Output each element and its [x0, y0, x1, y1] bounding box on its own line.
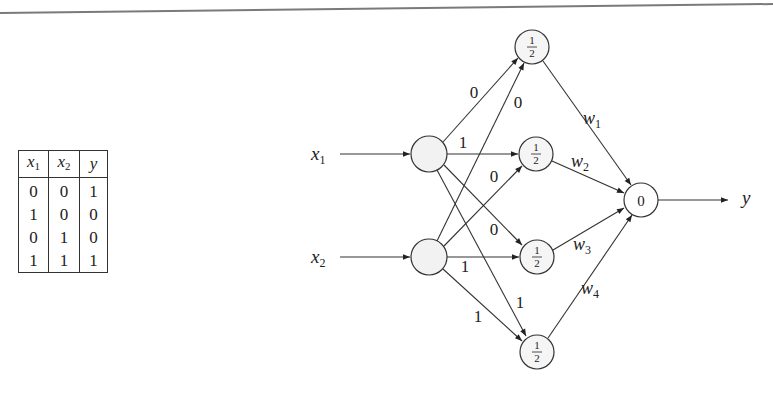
fraction-denominator: 2 — [534, 352, 540, 364]
neural-network-diagram: 1 2 1 2 1 2 1 2 0 x1 x2 0 0 1 0 0 1 1 1 — [0, 0, 773, 402]
weight-w3: w3 — [573, 234, 591, 257]
weight-w2: w2 — [571, 151, 589, 174]
weight-x2-h2: 0 — [490, 167, 499, 186]
label-var: w — [571, 151, 583, 171]
label-sub: 4 — [593, 287, 599, 301]
input-nodes — [411, 136, 447, 275]
edge-x1-h1 — [443, 58, 518, 142]
fraction-numerator: 1 — [533, 141, 539, 153]
edge-x2-h4 — [443, 269, 522, 341]
input-hidden-weight-labels: 0 0 1 0 0 1 1 1 — [459, 83, 525, 326]
label-var: w — [573, 234, 585, 254]
fraction-numerator: 1 — [529, 34, 535, 46]
input-node-x2 — [411, 239, 447, 275]
fraction-denominator: 2 — [533, 154, 539, 166]
fraction-denominator: 2 — [534, 257, 540, 269]
output-label-y: y — [740, 187, 751, 208]
label-sub: 1 — [595, 117, 601, 131]
input-node-x1 — [411, 136, 447, 172]
fraction-numerator: 1 — [534, 339, 540, 351]
input-label-x1: x1 — [310, 143, 325, 167]
weight-x1-h2: 1 — [459, 133, 468, 152]
weight-x1-h1: 0 — [470, 83, 479, 102]
weight-x2-h3: 1 — [461, 257, 470, 276]
hidden-thresholds: 1 2 1 2 1 2 1 2 — [527, 34, 542, 364]
hidden-nodes — [515, 30, 554, 369]
input-hidden-edges — [437, 58, 526, 341]
label-sub: 2 — [319, 256, 325, 270]
label-sub: 3 — [585, 243, 591, 257]
fraction-numerator: 1 — [534, 244, 540, 256]
fraction-denominator: 2 — [529, 47, 535, 59]
input-label-x2: x2 — [310, 246, 325, 270]
weight-x1-h3: 0 — [490, 220, 499, 239]
label-sub: 2 — [583, 160, 589, 174]
weight-x2-h4: 1 — [474, 307, 483, 326]
output-threshold: 0 — [637, 193, 645, 209]
edge-h4-out — [548, 215, 632, 338]
label-var: w — [583, 108, 595, 128]
edge-x2-h1 — [437, 63, 524, 241]
weight-w4: w4 — [581, 278, 599, 301]
weight-x1-h4: 1 — [516, 293, 525, 312]
weight-w1: w1 — [583, 108, 601, 131]
label-var: w — [581, 278, 593, 298]
input-arrows — [340, 154, 410, 257]
label-sub: 1 — [319, 153, 325, 167]
weight-x2-h1: 0 — [514, 93, 523, 112]
